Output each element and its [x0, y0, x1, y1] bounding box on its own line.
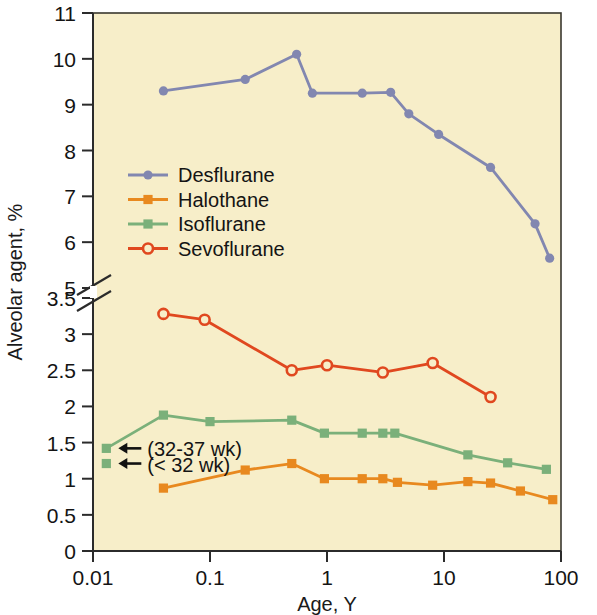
y-tick-label: 6: [64, 231, 76, 254]
y-tick-label: 10: [53, 48, 76, 71]
data-point: [386, 88, 395, 97]
data-point: [158, 309, 168, 319]
data-point: [434, 130, 443, 139]
data-point: [320, 474, 329, 483]
chart-figure: 1110987653.532.521.510.50 0.010.1110100 …: [0, 0, 597, 615]
y-tick-label: 1: [64, 468, 76, 491]
data-point: [463, 450, 472, 459]
y-tick-label: 1.5: [47, 432, 76, 455]
data-point: [287, 459, 296, 468]
legend-item-label: Sevoflurane: [178, 238, 285, 260]
data-point: [378, 429, 387, 438]
y-tick-label: 2.5: [47, 359, 76, 382]
data-point: [516, 486, 525, 495]
legend-item-label: Halothane: [178, 189, 269, 211]
data-point: [159, 484, 168, 493]
data-point: [503, 458, 512, 467]
legend-swatch-marker: [143, 219, 152, 228]
y-tick-label: 7: [64, 185, 76, 208]
y-tick-label: 0.5: [47, 504, 76, 527]
data-point: [486, 392, 496, 402]
data-point: [358, 89, 367, 98]
y-axis-title: Alveolar agent, %: [4, 203, 26, 360]
data-point: [287, 365, 297, 375]
data-point: [486, 478, 495, 487]
y-tick-label: 8: [64, 140, 76, 163]
annotation-label: (< 32 wk): [147, 454, 230, 476]
data-point: [358, 429, 367, 438]
data-point: [463, 477, 472, 486]
data-point: [542, 465, 551, 474]
data-point: [390, 429, 399, 438]
y-tick-label: 2: [64, 395, 76, 418]
data-point: [393, 478, 402, 487]
data-point: [358, 474, 367, 483]
y-tick-label: 3.5: [47, 287, 76, 310]
data-point: [428, 358, 438, 368]
data-point: [159, 86, 168, 95]
data-point: [530, 219, 539, 228]
data-point: [241, 75, 250, 84]
data-point: [159, 411, 168, 420]
data-point: [102, 444, 111, 453]
data-point: [320, 429, 329, 438]
data-point: [287, 416, 296, 425]
data-point: [486, 163, 495, 172]
legend-swatch-marker: [143, 244, 153, 254]
data-point: [378, 474, 387, 483]
x-tick-label: 0.1: [195, 566, 224, 589]
data-point: [241, 465, 250, 474]
data-point: [308, 89, 317, 98]
x-tick-label: 1: [321, 566, 333, 589]
x-axis-title: Age, Y: [297, 593, 357, 615]
legend-swatch-marker: [143, 195, 152, 204]
y-tick-label: 9: [64, 94, 76, 117]
data-point: [292, 50, 301, 59]
data-point: [548, 495, 557, 504]
data-point: [428, 481, 437, 490]
legend-swatch-marker: [143, 170, 152, 179]
data-point: [322, 360, 332, 370]
data-point: [200, 315, 210, 325]
x-tick-label: 0.01: [73, 566, 114, 589]
x-tick-label: 100: [543, 566, 578, 589]
y-tick-label: 3: [64, 323, 76, 346]
data-point: [404, 109, 413, 118]
x-tick-label: 10: [432, 566, 455, 589]
data-point: [205, 417, 214, 426]
alveolar-agent-line-chart: 1110987653.532.521.510.50 0.010.1110100 …: [0, 0, 597, 615]
axis-break-gap: [90, 286, 97, 298]
data-point: [378, 367, 388, 377]
isolated-points-group: [102, 459, 111, 468]
data-point: [545, 254, 554, 263]
isolated-data-point: [102, 459, 111, 468]
y-tick-label: 11: [54, 2, 76, 25]
legend-item-label: Isoflurane: [178, 213, 266, 235]
y-tick-label: 0: [64, 540, 76, 563]
legend-item-label: Desflurane: [178, 164, 275, 186]
